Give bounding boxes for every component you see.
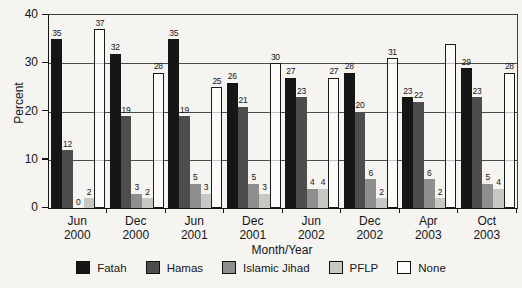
bar-value-label: 28 [154, 62, 163, 71]
y-tick-20 [42, 110, 48, 111]
bar-islamic-jihad-5 [365, 179, 376, 208]
legend-label-hamas: Hamas [167, 262, 203, 274]
bar-hamas-4 [296, 97, 307, 208]
x-tick [165, 208, 166, 213]
bar-islamic-jihad-4 [307, 189, 318, 208]
legend-item-islamic-jihad: Islamic Jihad [222, 261, 309, 274]
bar-none-7 [504, 73, 515, 208]
bar-value-label: 28 [345, 62, 354, 71]
bar-fatah-1 [110, 54, 121, 208]
bar-value-label: 5 [193, 173, 197, 182]
legend-swatch-fatah [76, 261, 90, 274]
legend-item-none: None [397, 261, 446, 274]
legend-item-hamas: Hamas [146, 261, 203, 274]
bar-pflp-1 [142, 198, 153, 208]
bar-value-label: 22 [414, 91, 423, 100]
x-tick [340, 208, 341, 213]
legend-item-pflp: PFLP [329, 261, 379, 274]
bar-value-label: 23 [473, 87, 482, 96]
bar-pflp-6 [435, 198, 446, 208]
bar-value-label: 27 [329, 67, 338, 76]
bar-pflp-0 [84, 198, 95, 208]
x-tick [223, 208, 224, 213]
bar-group-dec-2000: 32193228 [108, 15, 167, 208]
bar-fatah-4 [285, 78, 296, 208]
bar-hamas-3 [238, 107, 249, 208]
bar-fatah-6 [402, 97, 413, 208]
bar-value-label: 5 [486, 173, 490, 182]
y-tick-40 [42, 14, 48, 15]
legend-label-pflp: PFLP [350, 262, 379, 274]
bar-value-label: 23 [297, 87, 306, 96]
bar-value-label: 20 [356, 101, 365, 110]
y-tick-10 [42, 158, 48, 159]
bar-fatah-2 [168, 39, 179, 208]
bar-value-label: 37 [95, 19, 104, 28]
bar-value-label: 12 [63, 140, 72, 149]
bar-value-label: 21 [239, 96, 248, 105]
legend-swatch-hamas [146, 261, 160, 274]
bar-value-label: 3 [135, 183, 139, 192]
bar-value-label: 27 [286, 67, 295, 76]
bar-pflp-2 [201, 194, 212, 208]
x-tick-label-jun-2002: Jun2002 [298, 214, 325, 242]
bar-pflp-4 [318, 189, 329, 208]
bar-hamas-7 [472, 97, 483, 208]
bar-group-apr-2003: 232262 [400, 15, 459, 208]
bar-group-oct-2003: 29235428 [459, 15, 518, 208]
bar-none-0 [94, 29, 105, 208]
x-tick-label-jun-2000: Jun2000 [64, 214, 91, 242]
bar-value-label: 25 [212, 77, 221, 86]
bar-value-label: 2 [438, 188, 442, 197]
x-axis-title: Month/Year [48, 243, 516, 257]
legend-swatch-pflp [329, 261, 343, 274]
bar-hamas-0 [62, 150, 73, 208]
bar-value-label: 19 [122, 106, 131, 115]
bar-none-6 [445, 44, 456, 208]
y-tick-30 [42, 62, 48, 63]
bar-value-label: 2 [145, 188, 149, 197]
bar-none-1 [153, 73, 164, 208]
legend: Fatah Hamas Islamic Jihad PFLP None [0, 261, 522, 274]
bar-value-label: 29 [462, 58, 471, 67]
bar-hamas-2 [179, 116, 190, 208]
legend-swatch-none [397, 261, 411, 274]
y-tick-label-10: 10 [12, 153, 38, 165]
bar-group-jun-2002: 27234427 [283, 15, 342, 208]
bar-islamic-jihad-3 [248, 184, 259, 208]
x-tick-label-jun-2001: Jun2001 [181, 214, 208, 242]
legend-swatch-islamic-jihad [222, 261, 236, 274]
bar-value-label: 32 [111, 43, 120, 52]
x-tick [106, 208, 107, 213]
bar-pflp-3 [259, 194, 270, 208]
bar-fatah-0 [51, 39, 62, 208]
bar-islamic-jihad-2 [190, 184, 201, 208]
legend-label-fatah: Fatah [97, 262, 126, 274]
legend-label-none: None [418, 262, 446, 274]
legend-label-islamic-jihad: Islamic Jihad [243, 262, 309, 274]
x-tick-label-apr-2003: Apr2003 [415, 214, 442, 242]
bar-value-label: 4 [321, 178, 325, 187]
bar-hamas-6 [413, 102, 424, 208]
bar-pflp-5 [376, 198, 387, 208]
bar-value-label: 4 [496, 178, 500, 187]
x-tick [282, 208, 283, 213]
bar-none-4 [328, 78, 339, 208]
bar-islamic-jihad-6 [424, 179, 435, 208]
x-tick-label-oct-2003: Oct2003 [473, 214, 500, 242]
bar-value-label: 5 [252, 173, 256, 182]
bar-chart: Percent 35120237321932283519532526215330… [0, 0, 522, 288]
y-tick-label-30: 30 [12, 56, 38, 68]
x-tick-label-dec-2002: Dec2002 [356, 214, 383, 242]
bar-value-label: 6 [427, 169, 431, 178]
bar-value-label: 23 [403, 87, 412, 96]
legend-item-fatah: Fatah [76, 261, 126, 274]
bar-fatah-7 [461, 68, 472, 208]
bar-value-label: 31 [388, 48, 397, 57]
bar-none-3 [270, 63, 281, 208]
bar-value-label: 19 [180, 106, 189, 115]
y-tick-label-20: 20 [12, 105, 38, 117]
x-tick [399, 208, 400, 213]
x-tick [457, 208, 458, 213]
plot-area: 3512023732193228351953252621533027234427… [48, 14, 518, 209]
